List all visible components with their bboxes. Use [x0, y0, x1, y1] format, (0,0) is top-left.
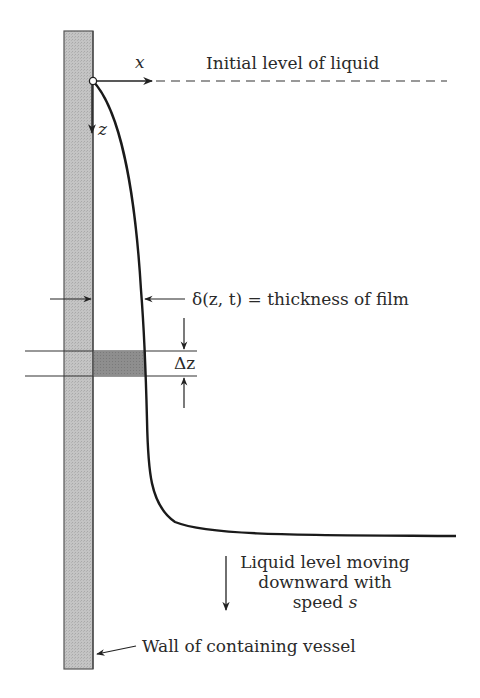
wall-pointer-arrow: [97, 646, 136, 654]
speed-variable: s: [349, 592, 358, 612]
wall-label: Wall of containing vessel: [142, 636, 356, 656]
origin-marker: [89, 77, 96, 84]
x-axis-label: x: [135, 52, 145, 72]
film-thickness-symbol: δ(z, t): [192, 289, 242, 309]
film-thickness-text: = thickness of film: [242, 289, 409, 309]
film-thickness-label: δ(z, t) = thickness of film: [192, 289, 409, 309]
liquid-level-label-line1: Liquid level moving: [240, 552, 410, 572]
delta-z-label: Δz: [174, 353, 195, 373]
liquid-level-label-line3: speed s: [293, 592, 358, 612]
initial-level-label: Initial level of liquid: [206, 53, 379, 73]
speed-word: speed: [293, 592, 349, 612]
vessel-wall: [64, 31, 93, 669]
film-drainage-diagram: x z Initial level of liquid δ(z, t) = th…: [0, 0, 480, 698]
liquid-level-label-line2: downward with: [258, 572, 392, 592]
z-axis-label: z: [97, 119, 108, 139]
film-element: [93, 351, 146, 376]
